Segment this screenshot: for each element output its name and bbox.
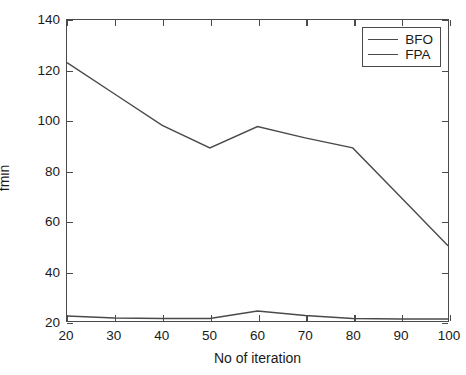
y-tick-20 [67,323,73,324]
x-tick-top-90 [402,20,403,26]
legend-label-bfo: BFO [405,33,433,47]
y-tick-80 [67,172,73,173]
x-tick-top-40 [163,20,164,26]
y-tick-right-40 [442,273,448,274]
x-tick-label-30: 30 [106,328,121,343]
legend-item-bfo: BFO [368,32,433,47]
x-tick-50 [211,315,212,321]
y-tick-100 [67,121,73,122]
x-tick-label-60: 60 [250,328,265,343]
x-tick-top-30 [115,20,116,26]
y-tick-right-120 [442,71,448,72]
x-tick-20 [67,315,68,321]
x-tick-top-80 [354,20,355,26]
y-tick-right-20 [442,323,448,324]
y-tick-right-140 [442,20,448,21]
chart-figure: BFO FPA 2030405060708090100 204060801001… [0,0,466,375]
x-tick-70 [306,315,307,321]
y-tick-140 [67,20,73,21]
y-tick-label-120: 120 [37,62,60,77]
y-axis-title: fmin [0,165,12,191]
x-tick-top-50 [211,20,212,26]
series-line-bfo [67,311,448,319]
x-tick-label-70: 70 [298,328,313,343]
y-tick-120 [67,71,73,72]
y-tick-label-140: 140 [37,12,60,27]
legend-line-swatch-bfo [368,39,398,40]
legend-item-fpa: FPA [368,47,433,62]
y-tick-label-20: 20 [45,315,60,330]
x-axis-title: No of iteration [66,350,449,366]
x-tick-label-90: 90 [394,328,409,343]
y-tick-right-80 [442,172,448,173]
x-tick-label-50: 50 [202,328,217,343]
x-tick-top-100 [450,20,451,26]
y-tick-label-60: 60 [45,214,60,229]
x-tick-label-80: 80 [346,328,361,343]
y-tick-right-60 [442,222,448,223]
x-tick-label-40: 40 [154,328,169,343]
chart-legend: BFO FPA [362,27,441,67]
y-tick-60 [67,222,73,223]
x-tick-90 [402,315,403,321]
x-tick-40 [163,315,164,321]
x-tick-top-60 [259,20,260,26]
x-tick-60 [259,315,260,321]
y-tick-label-40: 40 [45,264,60,279]
y-tick-label-100: 100 [37,113,60,128]
x-tick-top-70 [306,20,307,26]
x-tick-80 [354,315,355,321]
plot-area: BFO FPA [66,19,449,322]
x-tick-label-20: 20 [58,328,73,343]
y-tick-40 [67,273,73,274]
x-tick-100 [450,315,451,321]
legend-label-fpa: FPA [405,48,430,62]
x-tick-30 [115,315,116,321]
y-tick-right-100 [442,121,448,122]
series-line-fpa [67,63,448,246]
x-tick-label-100: 100 [438,328,461,343]
y-tick-label-80: 80 [45,163,60,178]
legend-line-swatch-fpa [368,54,398,55]
